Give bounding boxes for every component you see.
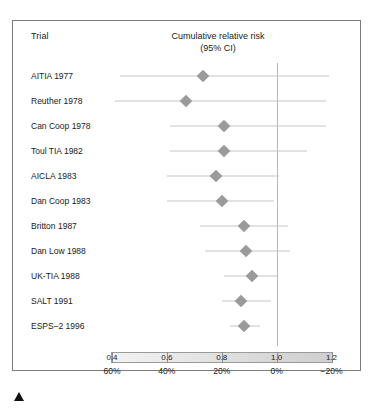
trial-label: ESPS–2 1996 [31,321,84,331]
confidence-interval-line [120,75,329,76]
trial-label: Can Coop 1978 [31,121,91,131]
x-axis-percent-label: −20% [321,366,343,376]
estimate-marker [237,319,250,332]
estimate-marker [218,144,231,157]
trial-label: Dan Low 1988 [31,246,86,256]
trial-row: AICLA 1983 [13,163,362,188]
trial-label: UK-TIA 1988 [31,271,80,281]
estimate-marker [237,219,250,232]
trial-row: Toul TIA 1982 [13,138,362,163]
trial-row: ESPS–2 1996 [13,313,362,338]
x-axis-percent-label: 60% [103,366,120,376]
plot-area: AITIA 1977Reuther 1978Can Coop 1978Toul … [13,21,362,372]
confidence-interval-line [167,175,279,176]
trial-row: AITIA 1977 [13,63,362,88]
trial-row: Can Coop 1978 [13,113,362,138]
x-axis-percent-label: 0% [270,366,282,376]
trial-label: Britton 1987 [31,221,77,231]
x-axis-tick-label: 0.4 [106,353,117,362]
x-axis-tick-label: 0.8 [216,353,227,362]
estimate-marker [246,269,259,282]
estimate-marker [180,94,193,107]
trial-label: Dan Coop 1983 [31,196,91,206]
x-axis-percent-label: 40% [158,366,175,376]
trial-label: Reuther 1978 [31,96,83,106]
trial-row: Britton 1987 [13,213,362,238]
trial-row: Dan Coop 1983 [13,188,362,213]
estimate-marker [215,194,228,207]
x-axis-tick-label: 1.2 [326,353,337,362]
estimate-marker [196,69,209,82]
x-axis-tick-label: 1.0 [271,353,282,362]
estimate-marker [218,119,231,132]
trial-label: AICLA 1983 [31,171,76,181]
estimate-marker [235,294,248,307]
confidence-interval-line [170,150,307,151]
confidence-interval-line [115,100,326,101]
trial-label: Toul TIA 1982 [31,146,83,156]
trial-row: Reuther 1978 [13,88,362,113]
up-triangle-icon [14,392,24,401]
forest-plot-figure: Trial Cumulative relative risk (95% CI) … [0,0,374,416]
trial-label: SALT 1991 [31,296,73,306]
x-axis-percent-label: 20% [213,366,230,376]
trial-row: SALT 1991 [13,288,362,313]
chart-frame: Trial Cumulative relative risk (95% CI) … [12,20,361,371]
trial-row: Dan Low 1988 [13,238,362,263]
estimate-marker [210,169,223,182]
trial-label: AITIA 1977 [31,71,73,81]
confidence-interval-line [170,125,326,126]
x-axis-tick-label: 0.6 [161,353,172,362]
trial-row: UK-TIA 1988 [13,263,362,288]
estimate-marker [240,244,253,257]
